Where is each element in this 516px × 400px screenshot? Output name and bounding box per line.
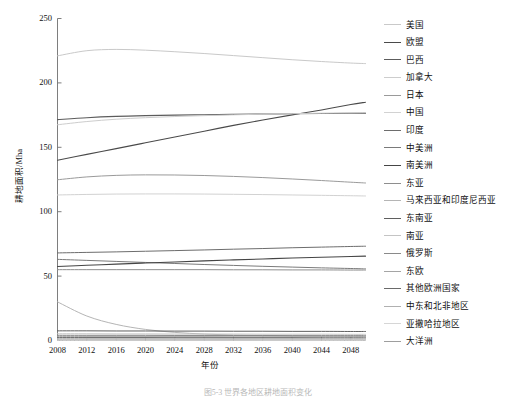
series-line xyxy=(58,246,366,253)
legend-line-icon xyxy=(384,235,401,236)
legend-label: 中国 xyxy=(406,108,424,117)
x-tick-label: 2012 xyxy=(71,346,103,355)
legend-line-icon xyxy=(384,200,401,201)
series-line xyxy=(58,113,366,119)
legend-item[interactable]: 中东和北非地区 xyxy=(384,298,516,316)
legend-line-icon xyxy=(384,112,401,113)
x-tick-label: 2028 xyxy=(188,346,220,355)
y-tick-label: 150 xyxy=(24,143,52,152)
legend-item[interactable]: 巴西 xyxy=(384,51,516,69)
legend-line-icon xyxy=(384,77,401,78)
legend-item[interactable]: 加拿大 xyxy=(384,69,516,87)
x-tick-label: 2020 xyxy=(130,346,162,355)
legend-item[interactable]: 马来西亚和印度尼西亚 xyxy=(384,192,516,210)
legend-item[interactable]: 日本 xyxy=(384,86,516,104)
legend-item[interactable]: 南亚 xyxy=(384,227,516,245)
legend-item[interactable]: 东南亚 xyxy=(384,210,516,228)
series-line xyxy=(58,175,366,183)
legend-line-icon xyxy=(384,271,401,272)
legend-label: 加拿大 xyxy=(406,73,433,82)
legend-label: 马来西亚和印度尼西亚 xyxy=(406,196,496,205)
legend-line-icon xyxy=(384,288,401,289)
legend-line-icon xyxy=(384,42,401,43)
legend-label: 东亚 xyxy=(406,179,424,188)
legend-label: 南亚 xyxy=(406,232,424,241)
legend-item[interactable]: 欧盟 xyxy=(384,34,516,52)
y-axis-title: 耕地面积/Mha xyxy=(12,140,24,212)
legend-line-icon xyxy=(384,253,401,254)
legend-label: 东欧 xyxy=(406,267,424,276)
legend-label: 美国 xyxy=(406,21,424,30)
legend-label: 日本 xyxy=(406,91,424,100)
x-tick-label: 2040 xyxy=(276,346,308,355)
legend-item[interactable]: 印度 xyxy=(384,122,516,140)
legend-line-icon xyxy=(384,218,401,219)
legend-item[interactable]: 俄罗斯 xyxy=(384,245,516,263)
legend-line-icon xyxy=(384,183,401,184)
legend-line-icon xyxy=(384,59,401,60)
x-tick-label: 2044 xyxy=(306,346,338,355)
y-tick-label: 100 xyxy=(24,207,52,216)
legend-line-icon xyxy=(384,95,401,96)
legend-item[interactable]: 东欧 xyxy=(384,262,516,280)
legend-label: 巴西 xyxy=(406,56,424,65)
legend-line-icon xyxy=(384,24,401,25)
legend-item[interactable]: 美国 xyxy=(384,16,516,34)
legend-item[interactable]: 中美洲 xyxy=(384,139,516,157)
x-tick-label: 2008 xyxy=(42,346,74,355)
legend-item[interactable]: 大洋洲 xyxy=(384,333,516,351)
chart-legend: 美国欧盟巴西加拿大日本中国印度中美洲南美洲东亚马来西亚和印度尼西亚东南亚南亚俄罗… xyxy=(384,16,516,350)
legend-item[interactable]: 其他欧洲国家 xyxy=(384,280,516,298)
series-line xyxy=(58,49,366,63)
data-series-lines xyxy=(58,49,366,340)
legend-label: 欧盟 xyxy=(406,38,424,47)
series-line xyxy=(58,102,366,160)
y-tick-label: 0 xyxy=(24,336,52,345)
legend-label: 亚撒哈拉地区 xyxy=(406,320,460,329)
legend-label: 印度 xyxy=(406,126,424,135)
legend-label: 南美洲 xyxy=(406,161,433,170)
legend-label: 东南亚 xyxy=(406,214,433,223)
legend-label: 中东和北非地区 xyxy=(406,302,469,311)
figure-container: 050100150200250 200820122016202020242028… xyxy=(0,0,516,400)
series-line xyxy=(58,334,366,335)
legend-line-icon xyxy=(384,147,401,148)
x-tick-label: 2024 xyxy=(159,346,191,355)
x-tick-label: 2016 xyxy=(100,346,132,355)
x-tick-label: 2032 xyxy=(218,346,250,355)
legend-line-icon xyxy=(384,165,401,166)
series-line xyxy=(58,331,366,332)
legend-item[interactable]: 亚撒哈拉地区 xyxy=(384,315,516,333)
legend-line-icon xyxy=(384,306,401,307)
y-tick-label: 50 xyxy=(24,272,52,281)
legend-label: 其他欧洲国家 xyxy=(406,284,460,293)
legend-line-icon xyxy=(384,130,401,131)
y-tick-label: 200 xyxy=(24,78,52,87)
legend-label: 大洋洲 xyxy=(406,337,433,346)
axes-lines xyxy=(58,19,366,341)
legend-line-icon xyxy=(384,323,401,324)
x-tick-label: 2048 xyxy=(335,346,367,355)
legend-label: 俄罗斯 xyxy=(406,249,433,258)
figure-caption: 图5-3 世界各地区耕地面积变化 xyxy=(0,386,516,397)
legend-item[interactable]: 中国 xyxy=(384,104,516,122)
legend-label: 中美洲 xyxy=(406,144,433,153)
x-tick-label: 2036 xyxy=(247,346,279,355)
y-tick-label: 250 xyxy=(24,14,52,23)
series-line xyxy=(58,194,366,196)
legend-item[interactable]: 东亚 xyxy=(384,174,516,192)
legend-item[interactable]: 南美洲 xyxy=(384,157,516,175)
legend-line-icon xyxy=(384,341,401,342)
x-axis-title: 年份 xyxy=(0,358,420,370)
